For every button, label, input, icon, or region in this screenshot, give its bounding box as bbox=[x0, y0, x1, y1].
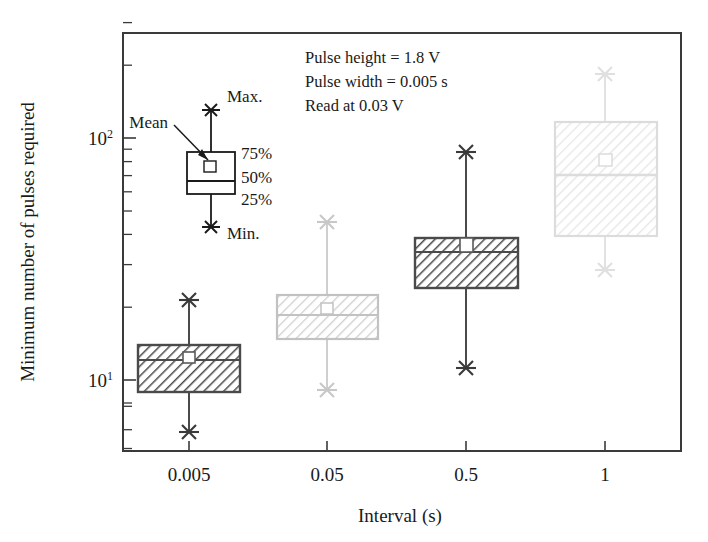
x-tick-label-3: 1 bbox=[600, 464, 610, 485]
x-tick-label-0: 0.005 bbox=[168, 464, 211, 485]
legend-box-rect bbox=[187, 152, 235, 194]
box-plot-group-1[interactable] bbox=[277, 215, 378, 397]
annotation-line-0: Pulse height = 1.8 V bbox=[305, 48, 440, 67]
y-tick-label-100: 102 bbox=[88, 127, 113, 149]
legend-median-label: 50% bbox=[241, 168, 272, 187]
mean-marker-1 bbox=[321, 303, 333, 314]
box-plot-group-0[interactable] bbox=[138, 293, 240, 439]
annotation-line-2: Read at 0.03 V bbox=[305, 96, 404, 115]
legend-schematic: Max. Mean 75% 50% 25% Min. bbox=[129, 87, 272, 243]
legend-q75-label: 75% bbox=[241, 144, 272, 163]
legend-mean-label: Mean bbox=[129, 113, 168, 132]
legend-max-label: Max. bbox=[227, 87, 262, 106]
x-tick-label-1: 0.05 bbox=[310, 464, 343, 485]
y-tick-label-10: 101 bbox=[88, 369, 113, 391]
annotation-line-1: Pulse width = 0.005 s bbox=[305, 72, 448, 91]
box-plot-group-2[interactable] bbox=[415, 145, 518, 375]
box-rect-1 bbox=[277, 295, 378, 339]
legend-min-label: Min. bbox=[227, 224, 260, 243]
box-plot-svg: 102 101 Minimum number of pulses require… bbox=[0, 0, 708, 542]
box-plot-group-3[interactable] bbox=[555, 67, 657, 277]
mean-marker-0 bbox=[183, 352, 195, 363]
x-axis-ticks bbox=[189, 441, 605, 451]
y-axis-title: Minimum number of pulses required bbox=[17, 102, 38, 382]
x-tick-label-2: 0.5 bbox=[454, 464, 478, 485]
x-axis-title: Interval (s) bbox=[358, 505, 442, 527]
chart-figure: 102 101 Minimum number of pulses require… bbox=[0, 0, 708, 542]
mean-marker-2 bbox=[460, 238, 473, 252]
legend-mean-marker bbox=[204, 161, 216, 172]
mean-marker-3 bbox=[599, 154, 612, 166]
parameter-annotation: Pulse height = 1.8 V Pulse width = 0.005… bbox=[305, 48, 448, 115]
y-axis-ticks bbox=[123, 23, 136, 449]
legend-q25-label: 25% bbox=[241, 190, 272, 209]
box-rect-3 bbox=[555, 122, 657, 236]
